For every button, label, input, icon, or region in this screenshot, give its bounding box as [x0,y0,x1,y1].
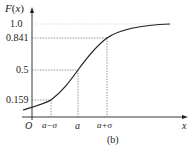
x-tick-a-plus-sigma: a+σ [97,121,112,130]
origin-label: O [25,121,32,131]
x-axis-title: x [182,121,186,131]
y-axis-arrow-icon [30,7,34,13]
y-tick-1.0: 1.0 [10,19,23,29]
x-axis-arrow-icon [182,115,188,119]
x-tick-a-minus-sigma: a−σ [42,121,57,130]
y-tick-0.159: 0.159 [6,95,29,105]
y-tick-0.5: 0.5 [16,65,29,75]
cdf-curve [23,24,170,110]
y-tick-0.841: 0.841 [6,33,29,43]
x-tick-a: a [75,121,80,131]
y-axis-title: F(x) [5,3,24,14]
figure-caption: (b) [107,135,119,145]
